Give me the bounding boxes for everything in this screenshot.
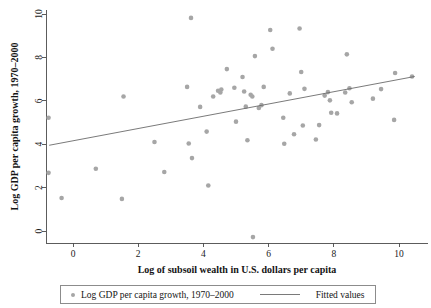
data-point [162, 170, 167, 175]
data-point [261, 85, 266, 90]
y-axis-title: Log GDP per capita growth, 1970–2000 [9, 43, 20, 211]
data-point [206, 183, 211, 188]
data-point [253, 54, 258, 59]
scatter-plot-figure: 0246810 0246810 Log of subsoil wealth in… [0, 0, 431, 308]
data-point [189, 16, 194, 21]
data-point [349, 100, 354, 105]
plot-canvas: 0246810 0246810 Log of subsoil wealth in… [0, 0, 431, 308]
data-point [190, 156, 195, 161]
x-tick-label: 6 [266, 249, 271, 259]
data-point [94, 166, 99, 171]
x-axis-title: Log of subsoil wealth in U.S. dollars pe… [138, 264, 337, 275]
data-point [225, 67, 230, 72]
data-point [121, 94, 126, 99]
y-tick-label: 4 [34, 142, 44, 147]
y-tick-label: 8 [34, 55, 44, 60]
data-point [250, 94, 255, 99]
data-point [393, 71, 398, 76]
legend-label-line: Fitted values [316, 290, 365, 300]
x-axis: 0246810 [46, 243, 428, 259]
data-point [292, 132, 297, 137]
x-tick-label: 10 [394, 249, 404, 259]
data-point [301, 123, 306, 128]
y-tick-label: 0 [34, 228, 44, 233]
data-point [371, 96, 376, 101]
legend-entry-line: Fitted values [234, 286, 365, 303]
data-point [343, 90, 348, 95]
data-point [59, 196, 64, 201]
data-point [242, 89, 247, 94]
legend-line-swatch-icon [260, 294, 300, 295]
legend-entry-scatter: Log GDP per capita growth, 1970–2000 [61, 286, 234, 303]
x-tick-label: 2 [136, 249, 141, 259]
data-point [186, 141, 191, 146]
data-point [270, 46, 275, 51]
legend-marker-dot-icon [71, 293, 75, 297]
data-point [251, 235, 256, 240]
data-point [281, 115, 286, 120]
data-point [46, 115, 51, 120]
data-point [345, 52, 350, 57]
data-point [329, 110, 334, 115]
axis-titles: Log of subsoil wealth in U.S. dollars pe… [9, 43, 337, 275]
data-point [379, 87, 384, 92]
data-point [328, 98, 333, 103]
data-point [335, 111, 340, 116]
data-point [299, 70, 304, 75]
y-tick-label: 6 [34, 98, 44, 103]
fitted-line [49, 77, 414, 146]
data-point [211, 94, 216, 99]
data-point [185, 85, 190, 90]
data-point [297, 26, 302, 31]
data-point [314, 137, 319, 142]
data-point [152, 140, 157, 145]
x-tick-label: 0 [71, 249, 76, 259]
data-point [282, 141, 287, 146]
data-point [268, 28, 273, 33]
data-point [302, 87, 307, 92]
x-tick-label: 4 [201, 249, 206, 259]
scatter-points [46, 16, 414, 240]
data-point [120, 197, 125, 202]
legend-label-scatter: Log GDP per capita growth, 1970–2000 [81, 290, 234, 300]
data-point [46, 171, 51, 176]
data-point [392, 118, 397, 123]
y-tick-label: 10 [34, 9, 44, 19]
y-axis: 0246810 [34, 9, 46, 243]
data-point [287, 91, 292, 96]
data-point [240, 75, 245, 80]
data-point [198, 105, 203, 110]
data-point [232, 85, 237, 90]
data-point [219, 87, 224, 92]
y-tick-label: 2 [34, 185, 44, 190]
x-tick-label: 8 [331, 249, 336, 259]
data-point [234, 119, 239, 124]
chart-legend: Log GDP per capita growth, 1970–2000 Fit… [60, 285, 376, 304]
data-point [245, 138, 250, 143]
data-point [204, 129, 209, 134]
data-point [317, 123, 322, 128]
